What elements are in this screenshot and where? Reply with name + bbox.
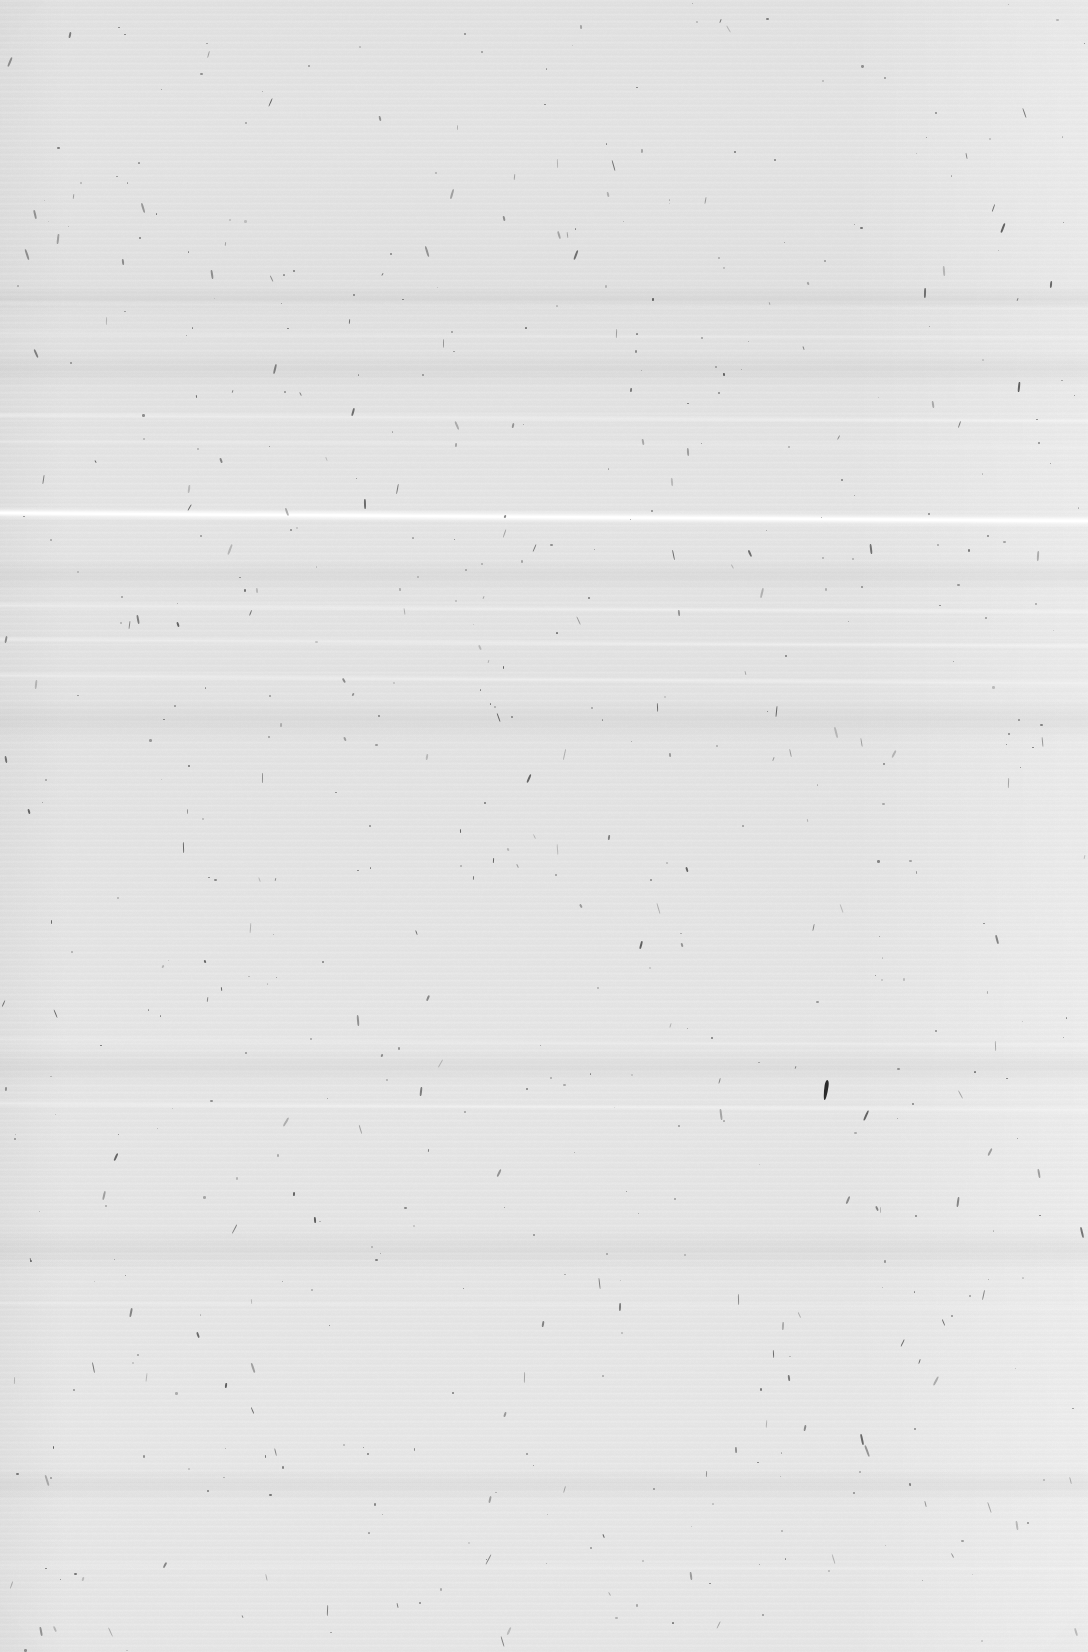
- scanned-page: [0, 0, 1088, 1652]
- page-text-content: [0, 0, 1088, 1652]
